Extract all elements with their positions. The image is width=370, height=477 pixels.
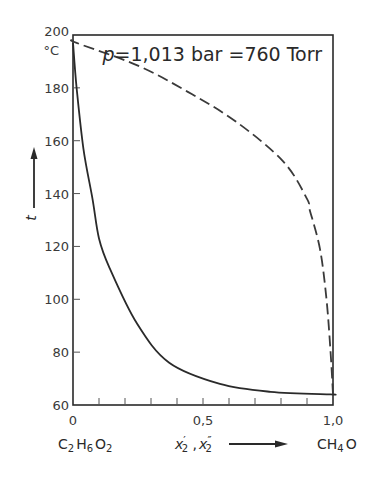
x-left-component-label: C2H6O2 xyxy=(58,436,112,454)
y-axis-label: t xyxy=(23,215,39,221)
arrow-up-icon xyxy=(31,147,38,159)
x-tick-label: 1,0 xyxy=(323,413,344,428)
phase-diagram-chart: 6080100120140160180200 °C 00,51,0 p=1,01… xyxy=(0,0,370,477)
y-axis-ticks xyxy=(73,88,80,352)
y-tick-label: 120 xyxy=(44,239,69,254)
x-axis-arrow-icon xyxy=(229,441,288,448)
x-right-component-label: CH4O xyxy=(317,436,357,454)
x-axis-tick-labels: 00,51,0 xyxy=(69,413,343,428)
y-tick-label: 140 xyxy=(44,187,69,202)
y-tick-label: 160 xyxy=(44,134,69,149)
y-tick-label: 180 xyxy=(44,81,69,96)
liquid-boiling-curve xyxy=(73,43,336,395)
y-tick-label: 60 xyxy=(52,398,69,413)
plot-frame xyxy=(73,35,333,405)
x-tick-label: 0,5 xyxy=(193,413,214,428)
pressure-annotation: p=1,013 bar =760 Torr xyxy=(102,43,323,65)
x-axis-ticks xyxy=(99,398,307,405)
y-tick-label: 80 xyxy=(52,345,69,360)
y-tick-label: 200 xyxy=(44,24,69,39)
y-tick-label: 100 xyxy=(44,292,69,307)
vapor-dew-curve xyxy=(71,40,333,394)
y-unit-label: °C xyxy=(43,43,59,58)
x-tick-label: 0 xyxy=(69,413,77,428)
y-axis-label-group: t xyxy=(23,147,39,221)
y-axis-tick-labels: 6080100120140160180200 xyxy=(44,24,69,413)
x-axis-label: x′2 ,x″2 xyxy=(174,434,212,454)
